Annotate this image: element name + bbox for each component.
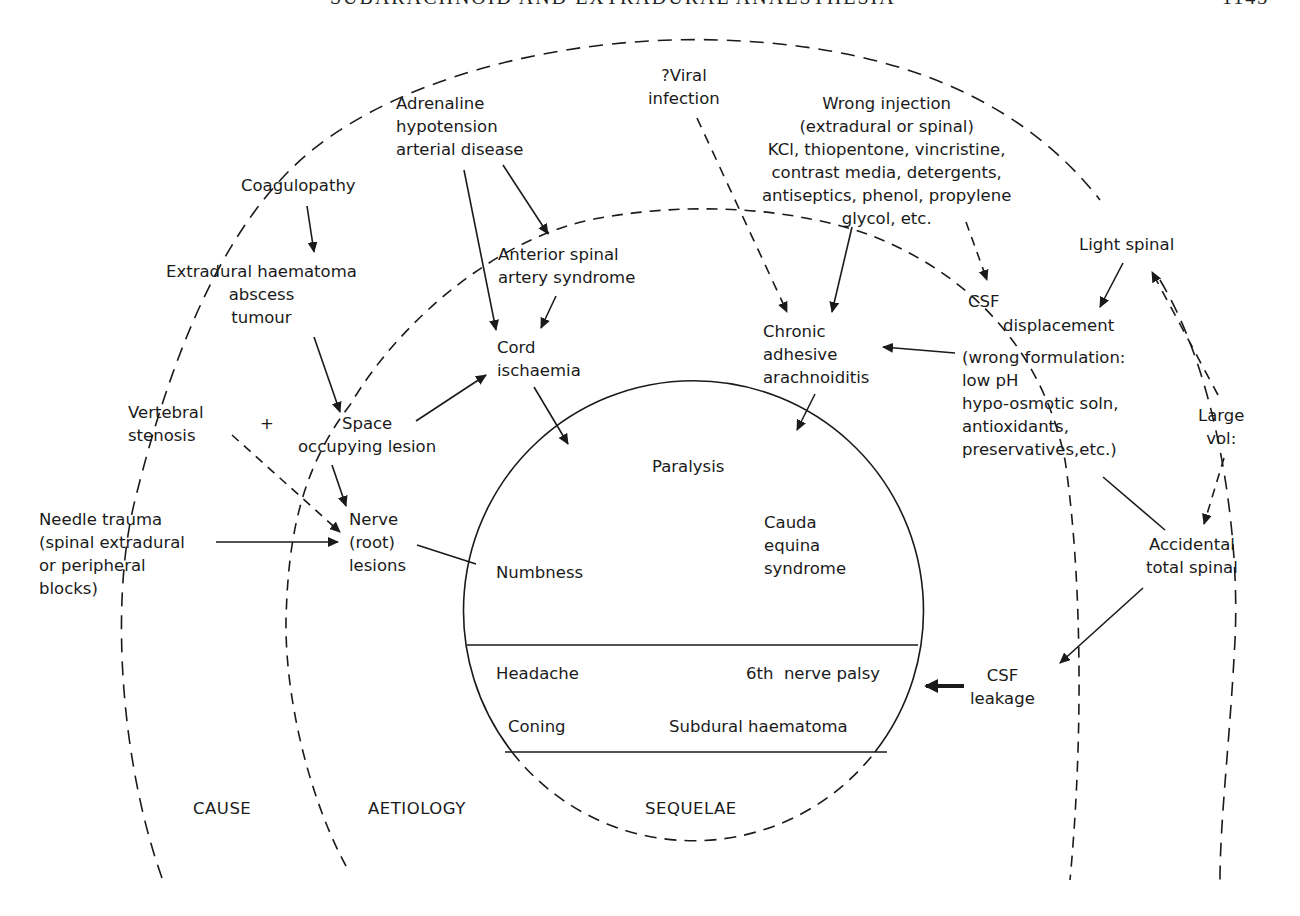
arrow-adrenaline-to-cord [464,170,496,330]
label-accidental-total-spinal: Accidental total spinal [1146,533,1238,579]
label-light-spinal: Light spinal [1079,233,1174,256]
arrow-cord-to-circle [534,387,568,444]
label-plus: + [260,412,274,435]
label-csf-leakage: CSF leakage [970,664,1035,710]
label-coning: Coning [508,715,566,738]
region-label-cause: CAUSE [193,797,251,820]
label-subdural-haematoma: Subdural haematoma [669,715,848,738]
label-space-occupying-lesion: Space occupying lesion [298,412,436,458]
label-vertebral-stenosis: Vertebral stenosis [128,401,204,447]
arrow-large-vol-to-light-spinal [1152,272,1218,395]
arrow-coagulopathy-to-haematoma [307,206,314,252]
label-numbness: Numbness [496,561,583,584]
label-nerve-root-lesions: Nerve (root) lesions [349,508,406,577]
arrow-light-spinal-to-displacement [1100,263,1123,307]
label-cord-ischaemia: Cord ischaemia [497,336,581,382]
label-chronic-arachnoiditis: Chronic adhesive arachnoiditis [763,320,869,389]
label-wrong-formulation: (wrong formulation: low pH hypo-osmotic … [962,346,1125,461]
arrow-anterior-to-cord [541,296,556,328]
line-nerve-to-circle [417,545,476,564]
arrow-arachnoiditis-to-circle [797,394,815,430]
arrow-space-to-nerve [332,465,346,506]
label-sixth-nerve-palsy: 6th nerve palsy [746,662,880,685]
arrow-accidental-to-leakage [1060,588,1143,663]
region-label-aetiology: AETIOLOGY [368,797,466,820]
label-headache: Headache [496,662,579,685]
region-label-sequelae: SEQUELAE [645,797,737,820]
arrow-injection-to-arachnoiditis [832,227,852,312]
label-displacement: displacement [1003,314,1114,337]
label-cauda-equina: Cauda equina syndrome [764,511,846,580]
label-csf: CSF [968,290,1000,313]
arrow-large-vol-to-accidental [1204,458,1224,524]
arrow-adrenaline-to-anterior [503,165,548,234]
label-coagulopathy: Coagulopathy [241,174,356,197]
arrow-haematoma-to-space [314,337,340,412]
label-needle-trauma: Needle trauma (spinal extradural or peri… [39,508,185,600]
label-large-vol: Large vol: [1198,404,1244,450]
label-extradural-haematoma: Extradural haematoma abscess tumour [166,260,357,329]
arrow-formulation-to-arachnoiditis [883,347,955,353]
label-wrong-injection: Wrong injection (extradural or spinal) K… [762,92,1011,230]
label-adrenaline-hypotension: Adrenaline hypotension arterial disease [396,92,524,161]
label-paralysis: Paralysis [652,455,724,478]
label-viral-infection: ?Viral infection [648,64,720,110]
arrow-injection-to-csf [966,222,987,280]
line-formulation-to-accidental [1103,477,1165,530]
label-anterior-spinal-artery: Anterior spinal artery syndrome [498,243,635,289]
